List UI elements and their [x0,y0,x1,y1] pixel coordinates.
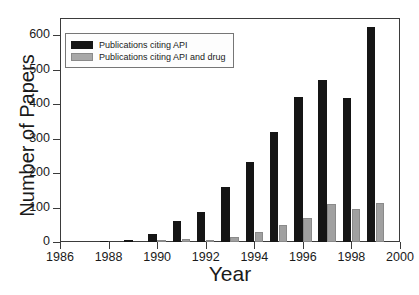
legend-item-series-a: Publications citing API [71,39,226,50]
bar-series-b-1994 [255,232,263,242]
y-tick-label: 200 [0,165,50,179]
bar-series-b-1995 [279,225,287,242]
y-tick-label: 100 [0,200,50,214]
bar-series-b-1992 [206,240,214,242]
y-tick-label: 600 [0,27,50,41]
bar-series-a-1996 [294,97,302,242]
chart-legend: Publications citing API Publications cit… [65,33,234,68]
bar-series-a-1994 [246,162,254,242]
x-tick-mark [254,242,255,249]
x-tick-mark [206,242,207,249]
y-tick-mark [53,208,60,209]
bar-series-a-1989 [124,240,132,242]
bar-series-b-1990 [157,240,165,242]
y-tick-mark [53,70,60,71]
bar-series-b-1997 [327,204,335,242]
bar-series-a-1991 [173,221,181,242]
bar-series-a-1998 [343,98,351,242]
y-tick-mark [53,104,60,105]
y-tick-label: 500 [0,62,50,76]
x-tick-mark [60,242,61,249]
x-tick-mark [109,242,110,249]
bar-series-a-1999 [367,27,375,242]
bar-series-b-1998 [352,209,360,242]
bar-series-a-1988 [100,241,108,242]
bar-series-a-1990 [148,234,156,242]
legend-item-series-b: Publications citing API and drug [71,51,226,62]
x-axis-title: Year [60,262,400,286]
bar-series-b-1993 [230,237,238,243]
gray-square-swatch-icon [71,53,93,61]
legend-label-series-a: Publications citing API [99,40,188,50]
x-tick-mark [400,242,401,249]
bar-series-a-1993 [221,187,229,242]
bar-series-a-1995 [270,132,278,242]
x-tick-mark [303,242,304,249]
x-tick-mark [351,242,352,249]
y-tick-label: 400 [0,96,50,110]
y-tick-label: 0 [0,234,50,248]
y-tick-mark [53,139,60,140]
black-square-swatch-icon [71,41,93,49]
y-tick-mark [53,242,60,243]
bar-series-b-1991 [182,239,190,242]
legend-label-series-b: Publications citing API and drug [99,52,226,62]
y-tick-mark [53,35,60,36]
y-tick-mark [53,173,60,174]
bar-series-b-1996 [303,218,311,242]
bar-series-a-1997 [318,80,326,242]
bar-series-a-1992 [197,212,205,242]
x-tick-mark [157,242,158,249]
y-tick-label: 300 [0,131,50,145]
bar-series-b-1999 [376,203,384,242]
